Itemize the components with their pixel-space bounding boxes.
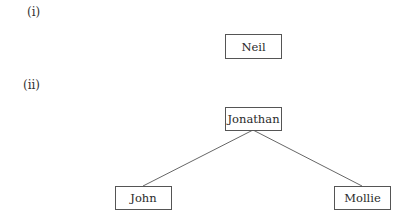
edge-jonathan-mollie — [253, 130, 362, 186]
edge-jonathan-john — [143, 130, 253, 186]
node-john-text: John — [130, 191, 156, 205]
node-jonathan-text: Jonathan — [227, 112, 279, 126]
node-jonathan: Jonathan — [225, 107, 282, 131]
node-mollie: Mollie — [334, 186, 391, 210]
node-mollie-text: Mollie — [344, 191, 381, 205]
node-john: John — [115, 186, 172, 210]
